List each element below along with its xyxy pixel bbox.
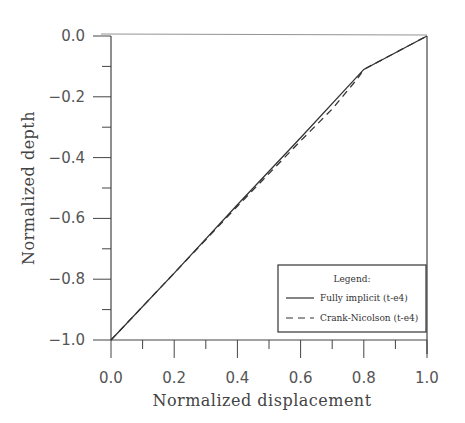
x-tick-label: 0.0 [99, 369, 123, 387]
legend-title: Legend: [334, 274, 371, 284]
legend-entry-crank-nicolson: Crank-Nicolson (t-e4) [320, 313, 418, 323]
x-tick-label: 0.6 [289, 369, 313, 387]
y-tick-label: −1.0 [49, 331, 85, 349]
x-tick-label: 0.8 [352, 369, 376, 387]
top-frame-line [101, 34, 427, 35]
y-tick-label: 0.0 [61, 27, 85, 45]
y-tick-label: −0.8 [49, 270, 85, 288]
x-tick-label: 0.4 [225, 369, 249, 387]
y-axis-title: Normalized depth [19, 111, 38, 265]
y-tick-label: −0.4 [49, 149, 85, 167]
x-axis-title: Normalized displacement [152, 391, 371, 410]
legend: Legend: Fully implicit (t-e4) Crank-Nico… [278, 265, 426, 332]
x-tick-label: 1.0 [415, 369, 439, 387]
chart: 0.00.20.40.60.81.00.0−0.2−0.4−0.6−0.8−1.… [0, 0, 465, 423]
x-tick-label: 0.2 [162, 369, 186, 387]
y-tick-label: −0.2 [49, 88, 85, 106]
y-tick-label: −0.6 [49, 209, 85, 227]
axes: 0.00.20.40.60.81.00.0−0.2−0.4−0.6−0.8−1.… [49, 27, 439, 387]
legend-entry-fully-implicit: Fully implicit (t-e4) [320, 293, 408, 303]
